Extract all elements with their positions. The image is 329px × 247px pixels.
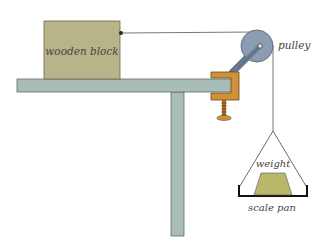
scale-pan-label: scale pan xyxy=(248,202,296,213)
pulley-axle xyxy=(258,44,262,48)
weight-label: weight xyxy=(256,158,292,169)
wooden-block-label: wooden block xyxy=(45,45,118,57)
table-top xyxy=(17,79,235,92)
pulley-label: pulley xyxy=(278,39,311,51)
table-leg xyxy=(171,92,184,236)
clamp-screw-knob xyxy=(217,116,231,121)
friction-experiment-diagram: wooden block pulley weight scale pan xyxy=(0,0,329,247)
string-horizontal xyxy=(121,32,256,33)
clamp-screw xyxy=(222,100,226,117)
weight xyxy=(254,173,292,195)
